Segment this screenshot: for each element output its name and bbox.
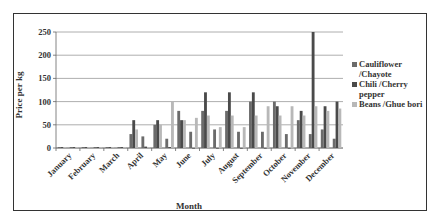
bar xyxy=(225,111,228,148)
bar xyxy=(309,134,312,148)
bar xyxy=(338,109,341,148)
bar xyxy=(336,102,339,148)
legend-label: Beans /Ghue bori xyxy=(359,99,422,109)
bar xyxy=(111,147,114,148)
y-tick-label: 200 xyxy=(38,50,51,60)
bar xyxy=(118,147,121,148)
bar xyxy=(165,139,168,148)
x-axis-title: Month xyxy=(176,201,202,211)
legend-item-chili: Chili /Cherry pepper xyxy=(352,79,432,99)
bar xyxy=(159,125,162,148)
legend-swatch-icon xyxy=(352,82,357,87)
bar xyxy=(84,147,87,148)
bar xyxy=(315,106,318,148)
legend-item-beans: Beans /Ghue bori xyxy=(352,99,432,109)
y-tick-label: 50 xyxy=(43,120,52,130)
bar xyxy=(326,111,329,148)
bar xyxy=(135,129,138,148)
bar xyxy=(324,106,327,148)
bar xyxy=(252,92,255,148)
y-tick-label: 100 xyxy=(38,97,51,107)
bar xyxy=(207,116,210,148)
y-tick-label: 150 xyxy=(38,73,51,83)
legend-item-cauliflower: Cauliflower /Chayote xyxy=(352,59,432,79)
bar xyxy=(94,147,97,148)
bar-chart: 050100150200250JanuaryFebruaryMarchApril… xyxy=(0,0,437,221)
legend: Cauliflower /Chayote Chili /Cherry peppe… xyxy=(352,59,432,109)
bar xyxy=(249,102,252,148)
bar xyxy=(70,147,73,148)
bar xyxy=(273,102,276,148)
y-tick-label: 250 xyxy=(38,27,51,37)
bar xyxy=(58,147,61,148)
bar xyxy=(276,106,279,148)
bar xyxy=(106,147,109,148)
bar xyxy=(156,120,159,148)
bar xyxy=(63,147,66,148)
bar xyxy=(333,139,336,148)
bar xyxy=(153,125,156,148)
y-axis-title: Price per kg xyxy=(14,55,24,135)
bar xyxy=(132,120,135,148)
bar xyxy=(147,147,150,148)
y-tick-label: 0 xyxy=(47,143,51,153)
bar xyxy=(261,132,264,148)
bar xyxy=(180,120,183,148)
bar xyxy=(312,32,315,148)
legend-swatch-icon xyxy=(352,102,357,107)
x-tick-label: May xyxy=(150,150,169,169)
bar xyxy=(228,92,231,148)
bar xyxy=(255,116,258,148)
bar xyxy=(237,132,240,148)
x-tick-label: June xyxy=(174,150,194,170)
bar xyxy=(129,134,132,148)
bar xyxy=(297,120,300,148)
bar xyxy=(213,129,216,148)
x-tick-label: February xyxy=(66,150,98,182)
bar xyxy=(243,127,246,148)
bar xyxy=(303,116,306,148)
bar xyxy=(61,147,64,148)
bar xyxy=(99,147,102,148)
x-tick-label: July xyxy=(199,150,218,169)
bar xyxy=(120,147,123,148)
bar xyxy=(189,132,192,148)
bar xyxy=(87,147,90,148)
bar xyxy=(279,116,282,148)
legend-label: Cauliflower /Chayote xyxy=(359,59,432,79)
bar xyxy=(288,148,291,149)
bar xyxy=(171,102,174,148)
bar xyxy=(73,147,76,148)
bar xyxy=(201,111,204,148)
bar xyxy=(321,129,324,148)
x-tick-label: April xyxy=(124,150,145,171)
bar xyxy=(177,111,180,148)
bar xyxy=(192,148,195,149)
x-tick-label: March xyxy=(97,150,122,175)
bar xyxy=(141,136,144,148)
bar xyxy=(240,148,243,149)
bar xyxy=(204,92,207,148)
bar xyxy=(82,147,85,148)
bar xyxy=(108,147,111,148)
bar xyxy=(183,120,186,148)
legend-swatch-icon xyxy=(352,62,357,67)
bar xyxy=(216,148,219,149)
bar xyxy=(285,134,288,148)
bar xyxy=(300,111,303,148)
bar xyxy=(168,147,171,148)
bar xyxy=(264,148,267,149)
bar xyxy=(123,147,126,148)
bar xyxy=(144,147,147,148)
bar xyxy=(267,106,270,148)
bar xyxy=(219,127,222,148)
bar xyxy=(96,147,99,148)
bar xyxy=(75,147,78,148)
bar xyxy=(291,106,294,148)
bar xyxy=(231,116,234,148)
bar xyxy=(195,118,198,148)
legend-label: Chili /Cherry pepper xyxy=(359,79,432,99)
